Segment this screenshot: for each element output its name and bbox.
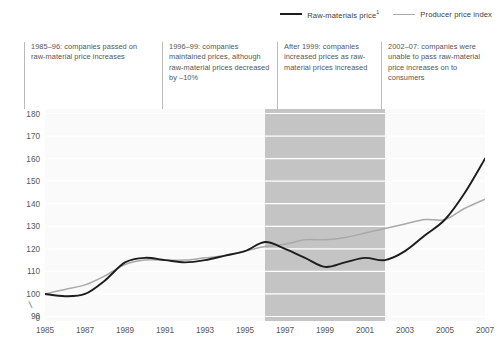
chart-legend: Raw-materials price1 Producer price inde…	[280, 9, 492, 20]
legend-item-producer-price-index: Producer price index	[393, 10, 492, 19]
annotation-1996-99: 1996–99: companies maintained prices, al…	[162, 42, 274, 84]
x-axis-tick-label: 1987	[76, 326, 94, 335]
y-axis-tick-label: 150	[26, 177, 40, 186]
chart-svg	[45, 109, 485, 321]
annotation-text: 1996–99: companies maintained prices, al…	[162, 42, 274, 84]
legend-label-raw-materials-price: Raw-materials price1	[307, 9, 379, 20]
x-axis-tick-label: 2001	[356, 326, 374, 335]
chart-container: Raw-materials price1 Producer price inde…	[0, 0, 500, 355]
x-axis-tick-label: 1997	[276, 326, 294, 335]
annotation-after-1999: After 1999: companies increased prices a…	[277, 42, 377, 73]
x-axis: 1985198719891991199319951997199920012003…	[0, 326, 500, 346]
y-axis-tick-label: 0	[35, 314, 40, 323]
x-axis-tick-label: 1995	[236, 326, 254, 335]
x-axis-tick-label: 1989	[116, 326, 134, 335]
x-axis-tick-label: 2005	[436, 326, 454, 335]
legend-line-swatch-icon	[393, 14, 415, 15]
plot-area	[45, 109, 485, 321]
annotation-text: 1985–96: companies passed on raw-materia…	[24, 42, 142, 63]
y-axis-tick-label: 120	[26, 244, 40, 253]
highlight-band	[265, 109, 385, 321]
x-axis-tick-label: 2003	[396, 326, 414, 335]
x-axis-tick-label: 1993	[196, 326, 214, 335]
legend-item-raw-materials-price: Raw-materials price1	[280, 9, 379, 20]
annotation-leader-line	[162, 42, 163, 109]
x-axis-tick-label: 1985	[36, 326, 54, 335]
y-axis-tick-label: 100	[26, 289, 40, 298]
legend-label-producer-price-index: Producer price index	[420, 10, 492, 19]
annotation-1985-96: 1985–96: companies passed on raw-materia…	[24, 42, 142, 63]
y-axis: 180170160150140130120110100900	[0, 0, 40, 355]
y-axis-tick-label: 140	[26, 199, 40, 208]
annotation-text: After 1999: companies increased prices a…	[277, 42, 377, 73]
y-axis-tick-label: 160	[26, 154, 40, 163]
annotation-leader-line	[277, 42, 278, 109]
annotation-2002-07: 2002–07: companies were unable to pass r…	[381, 42, 493, 84]
y-axis-tick-label: 180	[26, 109, 40, 118]
legend-line-swatch-icon	[280, 13, 302, 15]
y-axis-tick-label: 110	[27, 267, 40, 276]
x-axis-tick-label: 1991	[156, 326, 174, 335]
x-axis-tick-label: 2007	[476, 326, 494, 335]
annotation-leader-line	[381, 42, 382, 109]
annotation-text: 2002–07: companies were unable to pass r…	[381, 42, 493, 84]
y-axis-tick-label: 130	[26, 222, 40, 231]
y-axis-tick-label: 170	[26, 132, 40, 141]
x-axis-tick-label: 1999	[316, 326, 334, 335]
